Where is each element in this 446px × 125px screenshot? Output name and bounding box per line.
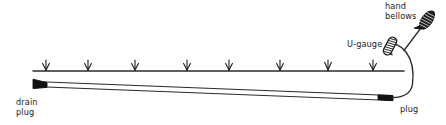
ground-load-arrow — [184, 60, 191, 70]
drain-plug-label-line1: drain — [16, 97, 38, 107]
hand-bellows-label-line2: bellows — [385, 11, 416, 21]
ground-level-group — [33, 60, 404, 71]
u-gauge-icon — [382, 36, 398, 57]
ground-load-arrow — [85, 60, 92, 70]
hand-bellows-label: handbellows — [385, 2, 416, 21]
pipe-inner-line — [40, 84, 388, 98]
drain-plug-cap — [33, 79, 47, 88]
pipe-test-diagram: handbellows U-gauge drainplug plug — [0, 0, 446, 125]
ground-load-arrows — [43, 60, 377, 70]
ground-load-arrow — [277, 60, 284, 70]
ground-load-arrow — [43, 60, 50, 70]
hand-bellows-icon — [414, 8, 437, 34]
diagram-canvas — [0, 0, 446, 125]
sloped-drain-pipe — [33, 79, 393, 101]
ground-load-arrow — [325, 60, 332, 70]
drain-plug-label: drainplug — [16, 98, 38, 117]
plug-cap — [378, 95, 393, 101]
hand-bellows-label-line1: hand — [385, 1, 406, 11]
plug-label: plug — [400, 105, 418, 115]
bellows-stem — [404, 28, 421, 51]
u-gauge-label: U-gauge — [347, 40, 382, 50]
ground-load-arrow — [370, 60, 377, 70]
ground-load-arrow — [132, 60, 139, 70]
drain-plug-label-line2: plug — [16, 107, 34, 117]
ground-load-arrow — [226, 60, 233, 70]
